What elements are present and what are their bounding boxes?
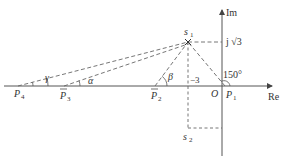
root-locus-diagram: Im Re O j √3 −3 150° γ α β s 1 s 2 P 1 P… xyxy=(0,0,282,158)
svg-text:4: 4 xyxy=(21,93,25,101)
svg-text:P: P xyxy=(13,88,20,99)
svg-text:P: P xyxy=(150,90,157,101)
imag-axis-label: Im xyxy=(226,7,237,18)
angle-beta-label: β xyxy=(167,71,173,82)
angle-beta-arc xyxy=(162,76,167,86)
angle-gamma-label: γ xyxy=(45,72,50,83)
p3-label: P 3 xyxy=(59,89,71,103)
svg-text:1: 1 xyxy=(190,31,194,39)
svg-text:s: s xyxy=(183,131,187,142)
real-axis-label: Re xyxy=(268,91,280,102)
p1-label: P 1 xyxy=(225,89,237,102)
svg-text:2: 2 xyxy=(158,95,162,103)
angle-alpha-label: α xyxy=(88,75,94,86)
svg-text:2: 2 xyxy=(189,136,193,144)
origin-label: O xyxy=(211,88,218,99)
svg-text:P: P xyxy=(59,90,66,101)
s1-label: s 1 xyxy=(184,26,194,39)
line-p4-s1 xyxy=(18,42,188,86)
angle-alpha-arc xyxy=(79,81,80,86)
angle-150-label: 150° xyxy=(223,69,242,80)
svg-text:1: 1 xyxy=(233,94,237,102)
diagram-canvas: Im Re O j √3 −3 150° γ α β s 1 s 2 P 1 P… xyxy=(0,0,282,158)
p2-label: P 2 xyxy=(150,89,162,103)
p4-label: P 4 xyxy=(13,88,25,101)
angle-gamma-arc xyxy=(33,82,34,86)
svg-text:3: 3 xyxy=(67,95,71,103)
svg-text:P: P xyxy=(225,89,232,100)
s2-label: s 2 xyxy=(183,131,193,144)
imag-value-label: j √3 xyxy=(225,36,242,47)
real-value-label: −3 xyxy=(190,75,200,85)
svg-text:s: s xyxy=(184,26,188,37)
